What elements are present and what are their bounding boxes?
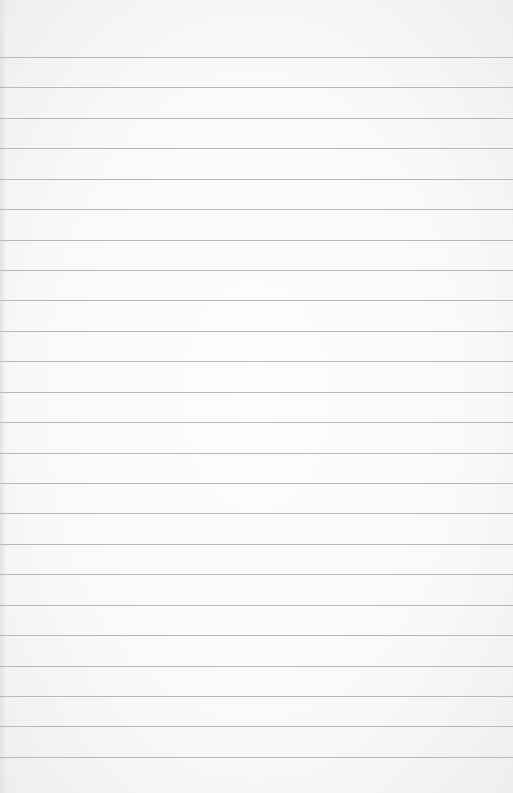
ruled-line [0, 544, 513, 545]
ruled-line [0, 392, 513, 393]
lined-paper [0, 0, 513, 793]
ruled-line [0, 453, 513, 454]
ruled-line [0, 209, 513, 210]
ruled-line [0, 666, 513, 667]
ruled-line [0, 331, 513, 332]
ruled-line [0, 361, 513, 362]
ruled-line [0, 605, 513, 606]
ruled-line [0, 118, 513, 119]
ruled-line [0, 270, 513, 271]
ruled-line [0, 513, 513, 514]
ruled-line [0, 179, 513, 180]
ruled-line [0, 240, 513, 241]
ruled-line [0, 726, 513, 727]
ruled-line [0, 57, 513, 58]
ruled-line [0, 574, 513, 575]
ruled-line [0, 300, 513, 301]
ruled-line [0, 635, 513, 636]
ruled-line [0, 757, 513, 758]
ruled-line [0, 483, 513, 484]
ruled-line [0, 148, 513, 149]
ruled-line [0, 422, 513, 423]
ruled-line [0, 87, 513, 88]
ruled-line [0, 696, 513, 697]
